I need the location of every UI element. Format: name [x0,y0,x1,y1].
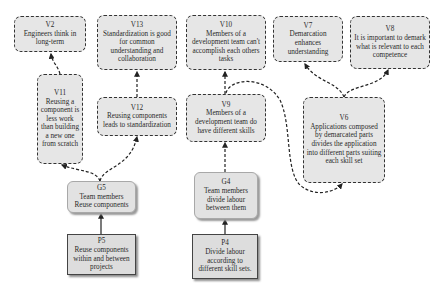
node-v11: V11 Reusing a component is less work tha… [37,74,83,164]
node-g4-id: G4 [222,178,231,187]
node-p5-text: Reuse components within and between proj… [70,246,133,272]
node-v2: V2 Engineers think in long-term [14,16,86,52]
node-g5-id: G5 [97,184,106,193]
node-v6-text: Applications composed by demarcated part… [306,123,382,166]
node-g4: G4 Team members divide labour between th… [194,172,258,219]
node-v13: V13 Standardization is good for common u… [97,15,177,70]
node-v12-text: Reusing components leads to standardizat… [100,112,174,129]
node-v7: V7 Demarcation enhances understanding [273,16,343,62]
node-v12-id: V12 [131,104,143,113]
node-p5: P5 Reuse components within and between p… [67,234,136,275]
node-v13-text: Standardization is good for common under… [100,30,174,64]
node-v9: V9 Members of a development team do have… [186,94,266,142]
node-v8: V8 It is important to demark what is rel… [350,16,430,69]
node-v6-id: V6 [340,114,349,123]
node-g4-text: Team members divide labour between them [197,187,255,213]
node-v9-id: V9 [222,101,231,110]
node-p4: P4 Divide labour according to different … [192,234,258,279]
node-p4-text: Divide labour according to different ski… [195,248,255,274]
edge-v6-v7 [305,64,344,97]
node-v13-id: V13 [131,21,143,30]
node-v11-id: V11 [54,89,66,98]
node-v2-text: Engineers think in long-term [17,30,83,47]
node-v9-text: Members of a development team do have di… [189,109,263,135]
node-v2-id: V2 [46,21,55,30]
node-v8-id: V8 [386,25,395,34]
node-g5: G5 Team members Reuse components [67,181,136,213]
edge-g5-v12 [100,137,137,181]
node-v6: V6 Applications composed by demarcated p… [303,97,385,183]
node-v10: V10 Members of a development team can't … [186,15,266,70]
node-v10-id: V10 [220,21,232,30]
value-goal-practice-diagram: V2 Engineers think in long-term V13 Stan… [0,0,439,294]
edge-g5-v11 [62,165,100,181]
node-v10-text: Members of a development team can't acco… [189,30,263,64]
edge-v6-v8 [344,70,388,97]
node-v12: V12 Reusing components leads to standard… [97,97,177,136]
node-p4-id: P4 [221,239,229,248]
node-v7-text: Demarcation enhances understanding [276,30,340,56]
node-g5-text: Team members Reuse components [70,193,133,210]
node-v11-text: Reusing a component is less work than bu… [40,98,80,150]
node-v8-text: It is important to demark what is releva… [353,34,427,60]
node-p5-id: P5 [98,237,106,246]
node-v7-id: V7 [304,22,313,31]
edge-v11-v2 [51,54,60,74]
